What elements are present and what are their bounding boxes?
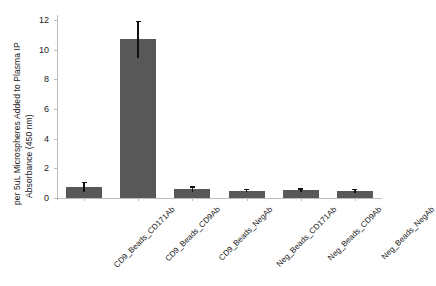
x-tick-label: CD9_Beads_NegAb (218, 205, 275, 262)
y-tick-mark (54, 79, 57, 80)
x-tick-mark (138, 198, 139, 201)
y-tick-label: 6 (44, 104, 49, 114)
y-tick-label: 4 (44, 134, 49, 144)
y-tick-label: 10 (39, 45, 49, 55)
y-tick: 8 (0, 74, 57, 84)
error-bar-cap-top (190, 186, 195, 187)
error-bar-cap-top (352, 189, 357, 190)
y-tick-mark (54, 20, 57, 21)
y-tick-label: 12 (39, 15, 49, 25)
y-axis-title-line1: Absorbance (450 nm) (24, 114, 34, 198)
y-tick: 4 (0, 134, 57, 144)
error-bar-cap-top (82, 182, 87, 183)
x-tick-label: Neg_Beads_NegAb (380, 205, 436, 261)
y-tick-mark (54, 139, 57, 140)
x-tick-mark (84, 198, 85, 201)
y-tick: 2 (0, 163, 57, 173)
y-tick-label: 2 (44, 163, 49, 173)
x-tick-mark (301, 198, 302, 201)
x-axis-line (57, 198, 382, 199)
y-tick-label: 8 (44, 74, 49, 84)
y-tick: 10 (0, 45, 57, 55)
y-tick: 6 (0, 104, 57, 114)
y-tick: 12 (0, 15, 57, 25)
y-tick-mark (54, 168, 57, 169)
x-tick-mark (247, 198, 248, 201)
x-tick-mark (192, 198, 193, 201)
error-bar (83, 182, 85, 192)
error-bar (137, 21, 139, 58)
y-axis-title-line2: per 5uL Microspheres Added to Plasma IP (12, 42, 22, 205)
x-tick-mark (355, 198, 356, 201)
y-tick-mark (54, 50, 57, 51)
error-bar-cap-top (136, 21, 141, 22)
y-tick-mark (54, 109, 57, 110)
error-bar-cap-top (244, 189, 249, 190)
y-axis-line (57, 15, 58, 200)
y-tick-mark (54, 198, 57, 199)
error-bar-cap-top (298, 188, 303, 189)
y-tick: 0 (0, 193, 57, 203)
y-tick-label: 0 (44, 193, 49, 203)
bar (120, 39, 156, 198)
